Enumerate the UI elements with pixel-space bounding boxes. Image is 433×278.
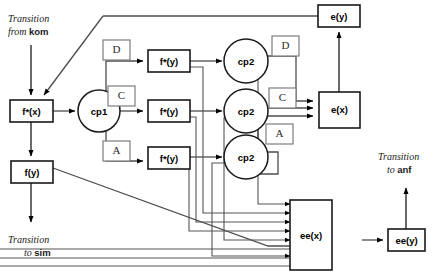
node-eex[interactable]: ee(x): [290, 200, 332, 270]
node-ex[interactable]: e(x): [319, 92, 360, 128]
node-eex-label: ee(x): [300, 230, 322, 241]
node-cp2-top[interactable]: cp2: [224, 39, 268, 83]
annotation-right-d-label: D: [282, 39, 290, 51]
transition-from-kom-prefix: from: [8, 26, 29, 37]
node-cp1-label: cp1: [91, 106, 108, 117]
transition-to-anf-line2: to anf: [387, 164, 412, 175]
annotation-right-d: D: [272, 36, 299, 56]
node-fsy-bot-label: f*(y): [160, 153, 178, 164]
node-fsy-top[interactable]: f*(y): [148, 50, 190, 72]
annotation-right-c: C: [269, 88, 296, 108]
node-cp2-mid[interactable]: cp2: [224, 89, 268, 133]
node-cp2-bot[interactable]: cp2: [224, 135, 268, 179]
annotation-left-d-label: D: [113, 43, 121, 55]
transition-to-anf-prefix: to: [387, 164, 397, 175]
transition-to-sim: Transition to sim: [8, 234, 51, 258]
annotation-right-c-label: C: [279, 91, 286, 103]
annotation-left-c-label: C: [118, 89, 125, 101]
node-fsy-mid-label: f*(y): [160, 106, 178, 117]
annotation-right-a-label: A: [276, 127, 284, 139]
edge-fy-to-eex: [53, 168, 290, 246]
transition-to-sim-prefix: to: [24, 247, 34, 258]
annotation-right-a: A: [266, 124, 293, 144]
transition-from-kom-line2: from kom: [8, 26, 49, 37]
diagram-canvas: f*(x) f(y) cp1 f*(y) f*(y) f*(y) cp2 cp2…: [0, 0, 433, 278]
node-fy[interactable]: f(y): [11, 161, 53, 183]
node-cp2-mid-label: cp2: [238, 106, 254, 117]
node-fx-label: f*(x): [22, 106, 40, 117]
node-fsy-mid[interactable]: f*(y): [148, 100, 190, 122]
annotation-left-d: D: [103, 40, 130, 60]
node-eey[interactable]: ee(y): [388, 229, 425, 251]
node-fsy-top-label: f*(y): [160, 56, 178, 67]
node-ey[interactable]: e(y): [318, 5, 360, 27]
node-cp2-bot-label: cp2: [238, 152, 254, 163]
node-cp2-top-label: cp2: [238, 56, 254, 67]
transition-from-kom: Transition from kom: [8, 13, 49, 37]
annotation-left-a: A: [103, 141, 130, 161]
transition-to-sim-bold: sim: [34, 247, 50, 258]
transition-to-anf-bold: anf: [397, 164, 412, 175]
transition-to-sim-line1: Transition: [8, 234, 49, 245]
transition-to-anf: Transition to anf: [378, 151, 419, 175]
node-ey-label: e(y): [331, 11, 348, 22]
node-fsy-bot[interactable]: f*(y): [148, 147, 190, 169]
transition-from-kom-bold: kom: [29, 26, 49, 37]
transition-to-sim-line2: to sim: [24, 247, 51, 258]
annotation-left-c: C: [108, 86, 135, 106]
transition-to-anf-line1: Transition: [378, 151, 419, 162]
diagram-svg: f*(x) f(y) cp1 f*(y) f*(y) f*(y) cp2 cp2…: [0, 0, 433, 278]
node-fx[interactable]: f*(x): [10, 100, 53, 122]
node-eey-label: ee(y): [395, 235, 417, 246]
edge-topfeedback-to-fx: [44, 16, 103, 95]
node-ex-label: e(x): [331, 104, 348, 115]
transition-from-kom-line1: Transition: [8, 13, 49, 24]
annotation-left-a-label: A: [113, 144, 121, 156]
node-fy-label: f(y): [25, 167, 40, 178]
